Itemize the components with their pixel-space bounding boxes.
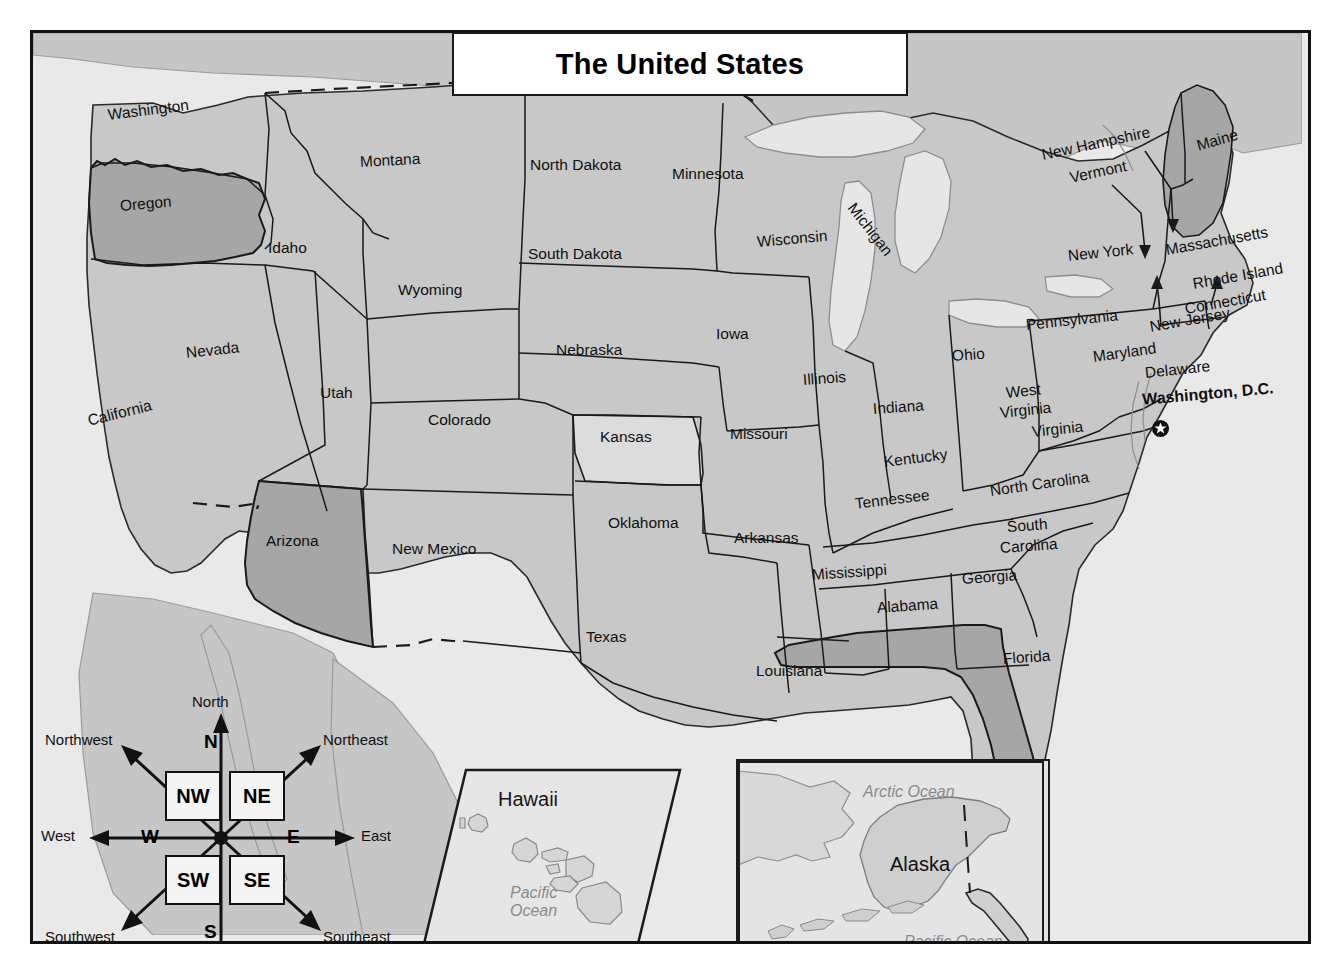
compass-south-arrow bbox=[213, 943, 229, 944]
map-title: The United States bbox=[556, 48, 804, 81]
compass-box-se[interactable]: SE bbox=[229, 855, 285, 905]
compass-box-ne[interactable]: NE bbox=[229, 771, 285, 821]
state-kansas bbox=[573, 415, 703, 485]
compass-box-sw[interactable]: SW bbox=[165, 855, 221, 905]
compass-letter-w: W bbox=[141, 826, 159, 848]
map-page: Hawaii Pacific Ocean bbox=[0, 0, 1321, 972]
compass-label-northeast: Northeast bbox=[323, 731, 388, 748]
compass-letter-s: S bbox=[204, 921, 217, 943]
alaska-inset: Arctic Ocean Alaska Pacific Ocean bbox=[736, 759, 1050, 944]
compass-west-arrow bbox=[89, 830, 109, 846]
compass-label-west: West bbox=[41, 827, 75, 844]
hawaii-inset: Hawaii Pacific Ocean bbox=[418, 766, 684, 944]
compass-east-arrow bbox=[335, 830, 355, 846]
compass-label-east: East bbox=[361, 827, 391, 844]
compass-letter-n: N bbox=[204, 731, 218, 753]
state-oregon bbox=[89, 159, 265, 266]
compass-rose: NW NE SW SE N S E W North South East Wes… bbox=[61, 693, 401, 944]
compass-label-northwest: Northwest bbox=[45, 731, 113, 748]
compass-label-southwest: Southwest bbox=[45, 928, 115, 944]
map-frame: Hawaii Pacific Ocean bbox=[30, 30, 1311, 944]
washington-dc-marker-icon bbox=[1151, 419, 1170, 438]
compass-label-southeast: Southeast bbox=[323, 928, 391, 944]
compass-north-arrow bbox=[213, 713, 229, 733]
compass-label-north: North bbox=[192, 693, 229, 710]
map-title-box: The United States bbox=[452, 32, 908, 96]
compass-center-dot bbox=[214, 831, 228, 845]
compass-letter-e: E bbox=[287, 826, 300, 848]
compass-box-nw[interactable]: NW bbox=[165, 771, 221, 821]
